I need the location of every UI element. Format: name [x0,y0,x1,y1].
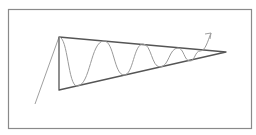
price-oscillation-wave [59,33,211,86]
triangle-pattern-diagram [0,0,256,135]
breakout-arrow-icon [205,33,211,39]
prior-uptrend-line [35,37,59,104]
triangle-boundary [59,37,226,90]
diagram-svg [0,0,256,135]
